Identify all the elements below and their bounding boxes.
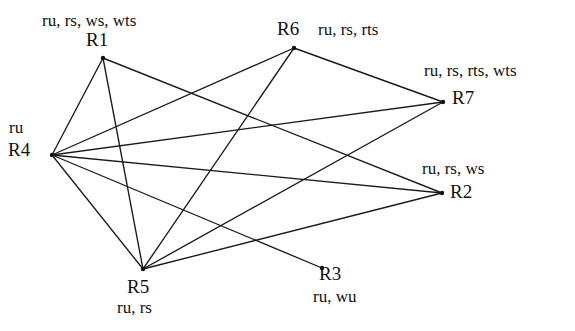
label-r2-attrs: ru, rs, ws — [422, 160, 484, 178]
label-r1-attrs: ru, rs, ws, wts — [42, 12, 136, 30]
edges-group — [52, 48, 443, 269]
edge-r1-r2 — [103, 58, 442, 193]
edge-r4-r2 — [52, 155, 442, 193]
label-r3-id: R3 — [319, 264, 341, 284]
label-r5-id: R5 — [127, 277, 149, 297]
node-r2[interactable] — [440, 191, 444, 195]
node-r1[interactable] — [101, 56, 105, 60]
diagram-canvas: ru, rs, ws, wtsR1R6ru, rs, rtsru, rs, rt… — [0, 0, 575, 331]
label-r6-attrs: ru, rs, rts — [318, 21, 378, 39]
node-r6[interactable] — [292, 46, 296, 50]
edge-r5-r7 — [143, 102, 443, 269]
edge-r4-r1 — [52, 58, 103, 155]
label-r2-id: R2 — [450, 182, 472, 202]
label-r5-attrs: ru, rs — [117, 299, 152, 317]
label-r3-attrs: ru, wu — [313, 288, 356, 306]
edge-r4-r3 — [52, 155, 322, 268]
node-r4[interactable] — [50, 153, 54, 157]
edge-r6-r7 — [294, 48, 443, 102]
node-r7[interactable] — [441, 100, 445, 104]
label-r7-id: R7 — [452, 88, 474, 108]
label-r6-id: R6 — [277, 19, 299, 39]
label-r1-id: R1 — [86, 30, 108, 50]
label-r4-attrs: ru — [9, 119, 23, 137]
node-r5[interactable] — [141, 267, 145, 271]
label-r4-id: R4 — [8, 140, 30, 160]
edge-r4-r5 — [52, 155, 143, 269]
label-r7-attrs: ru, rs, rts, wts — [424, 62, 517, 80]
